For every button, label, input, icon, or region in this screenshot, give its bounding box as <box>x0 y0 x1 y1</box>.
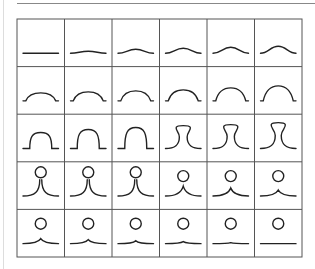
droplet-icon <box>83 167 94 178</box>
fluid-surface-curve <box>166 242 202 244</box>
fluid-surface-curve <box>118 91 154 101</box>
fluid-surface-curve <box>23 132 59 148</box>
fluid-surface-curve <box>213 88 249 101</box>
fluid-surface-curve <box>261 86 297 101</box>
fluid-surface-curve <box>118 241 154 244</box>
droplet-icon <box>273 171 284 182</box>
droplet-icon <box>225 218 236 229</box>
fluid-surface-curve <box>166 126 202 149</box>
droplet-sequence-diagram <box>0 0 315 269</box>
fluid-surface-curve <box>261 46 297 53</box>
fluid-surface-curve <box>118 180 154 196</box>
droplet-icon <box>130 218 141 229</box>
droplet-icon <box>178 171 189 182</box>
fluid-surface-curve <box>118 49 154 53</box>
droplet-icon <box>225 171 236 182</box>
droplet-icon <box>178 218 189 229</box>
droplet-icon <box>130 167 141 178</box>
droplet-icon <box>83 218 94 229</box>
fluid-surface-curve <box>261 190 297 196</box>
fluid-surface-curve <box>23 180 59 196</box>
droplet-icon <box>35 167 46 178</box>
fluid-surface-curve <box>71 51 107 53</box>
fluid-surface-curve <box>213 243 249 244</box>
fluid-surface-curve <box>213 125 249 149</box>
fluid-surface-curve <box>213 188 249 196</box>
fluid-surface-curve <box>118 127 154 148</box>
fluid-surface-curve <box>71 180 107 196</box>
droplet-icon <box>273 218 284 229</box>
fluid-surface-curve <box>166 186 202 196</box>
droplet-icon <box>35 218 46 229</box>
fluid-surface-curve <box>23 93 59 101</box>
fluid-surface-curve <box>71 240 107 244</box>
fluid-surface-curve <box>213 47 249 53</box>
fluid-surface-curve <box>166 90 202 101</box>
fluid-surface-curve <box>71 92 107 101</box>
fluid-surface-curve <box>23 239 59 244</box>
fluid-surface-curve <box>166 48 202 53</box>
fluid-surface-curve <box>71 129 107 148</box>
fluid-surface-curve <box>261 123 297 149</box>
